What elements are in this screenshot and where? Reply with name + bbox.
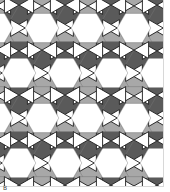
bottom-frame-line (0, 186, 164, 187)
panel-label: B (3, 184, 7, 192)
rhombitrihexagonal-tiling (0, 0, 164, 186)
tiling-figure (0, 0, 164, 186)
right-frame-line (163, 0, 164, 186)
